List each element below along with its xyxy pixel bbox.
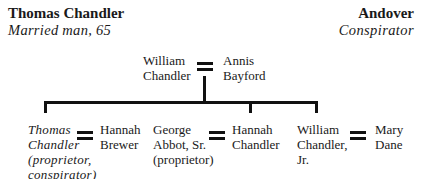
child-3-spouse: Mary Dane [375,122,403,152]
child-drop-3 [315,101,318,113]
child-3-person: William Chandler, Jr. [297,122,347,167]
sibling-bar [44,101,318,104]
marriage-sign-2 [209,131,225,141]
child-drop-2 [249,101,252,113]
child-2-spouse: Hannah Chandler [232,122,280,152]
marriage-sign-1 [77,131,93,141]
parent-wife: Annis Bayford [223,53,266,83]
child-2-person: George Abbot, Sr. (proprietor) [153,122,214,167]
header-subtitle: Married man, 65 [8,22,111,39]
parent-husband: William Chandler [143,53,191,83]
descent-line [203,76,206,103]
marriage-sign-parents [197,62,213,72]
header-name: Thomas Chandler [8,5,124,22]
marriage-sign-3 [350,131,366,141]
header-place: Andover [358,5,414,22]
child-1-spouse: Hannah Brewer [100,122,140,152]
header-role: Conspirator [339,22,414,39]
child-drop-1 [44,101,47,113]
